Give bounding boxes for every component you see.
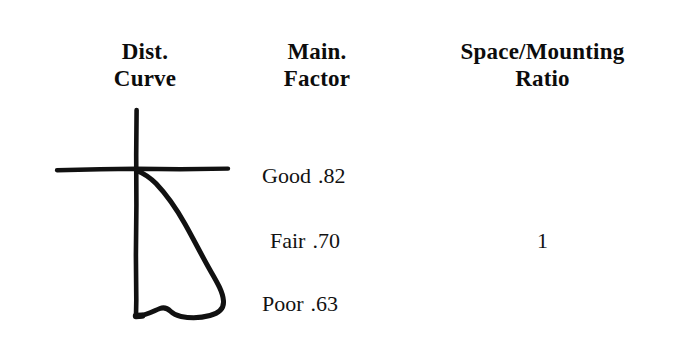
horizontal-axis-line — [57, 169, 228, 171]
table-row: Poor.63 — [262, 291, 338, 317]
column-header-space-mounting-ratio-line2: Ratio — [420, 65, 665, 92]
factor-value: .70 — [312, 228, 340, 253]
factor-value: .63 — [311, 291, 339, 316]
column-header-space-mounting-ratio: Space/Mounting Ratio — [420, 38, 665, 92]
space-mounting-ratio-value: 1 — [420, 228, 665, 254]
distribution-curve-cell — [30, 95, 250, 335]
column-header-dist-curve-line1: Dist. — [55, 38, 235, 65]
distribution-curve-path — [137, 171, 224, 318]
column-header-main-factor: Main. Factor — [237, 38, 397, 92]
factor-label: Fair — [270, 228, 305, 253]
vertical-axis-line — [136, 110, 137, 316]
factor-label: Good — [262, 163, 311, 188]
column-header-dist-curve: Dist. Curve — [55, 38, 235, 92]
table-row: Fair.70 — [270, 228, 340, 254]
factor-label: Poor — [262, 291, 304, 316]
column-header-main-factor-line1: Main. — [237, 38, 397, 65]
column-header-dist-curve-line2: Curve — [55, 65, 235, 92]
table-row: Good.82 — [262, 163, 345, 189]
factor-value: .82 — [318, 163, 346, 188]
distribution-curve-diagram — [30, 95, 250, 335]
figure-root: Dist. Curve Main. Factor Space/Mounting … — [0, 0, 676, 348]
column-header-space-mounting-ratio-line1: Space/Mounting — [420, 38, 665, 65]
column-header-main-factor-line2: Factor — [237, 65, 397, 92]
